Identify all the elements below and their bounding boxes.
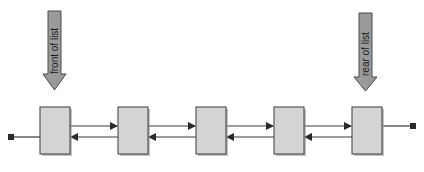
list-node-1	[118, 107, 150, 156]
front-pointer-label: front of list	[49, 28, 60, 74]
rear-pointer-arrow: rear of list	[354, 13, 377, 91]
list-node-0	[40, 107, 72, 156]
doubly-linked-list-diagram: front of list rear of list	[0, 0, 424, 172]
right-null-terminator	[383, 123, 416, 129]
rear-pointer-label: rear of list	[360, 32, 371, 76]
list-node-4	[352, 107, 384, 156]
left-null-terminator	[8, 134, 40, 140]
null-terminator-icon	[410, 123, 416, 129]
front-pointer-arrow: front of list	[43, 11, 66, 90]
list-node-2	[196, 107, 228, 156]
list-node-3	[274, 107, 306, 156]
null-terminator-icon	[8, 134, 14, 140]
